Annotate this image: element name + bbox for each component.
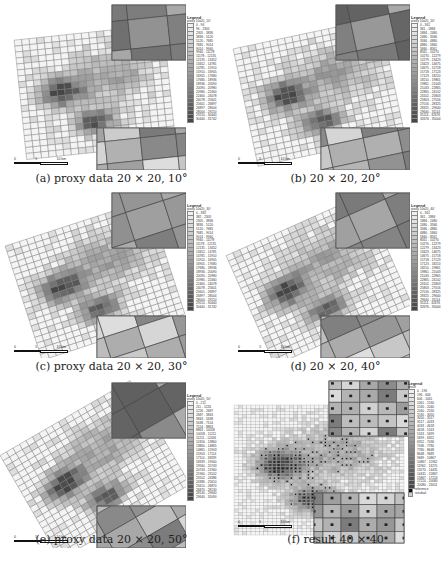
map-legend: Legendproxy 10x20_40°0 - 361361 - 188418…	[411, 204, 447, 310]
scale-bar-segment	[14, 350, 40, 352]
scale-bar-label: 0	[238, 345, 240, 349]
scale-bar: 0510 km	[238, 345, 298, 357]
scale-bar: 0510 km	[14, 157, 74, 169]
legend-swatch	[411, 306, 418, 311]
legend-entry-label: 32676 - 35004	[420, 306, 441, 310]
scale-bar-label: 0	[238, 520, 240, 524]
scale-bar-label: 10 km	[280, 157, 290, 161]
map-legend: Legendproxy 10x20_20°0 - 361361 - 188418…	[411, 16, 447, 122]
scale-bar-segment	[264, 525, 292, 528]
scale-bar-label: 0	[14, 157, 16, 161]
scale-bar-segment	[264, 350, 292, 353]
panel-caption: (a) proxy data 20 × 20, 10°	[0, 172, 223, 185]
legend-swatch	[187, 306, 194, 311]
choropleth-grid	[0, 378, 186, 548]
map-panel-b: Legendproxy 10x20_20°0 - 361361 - 188418…	[224, 0, 447, 190]
map-legend: Legendproxy 10x20_30°0 - 382382 - 230523…	[187, 204, 223, 310]
scale-bar-segment	[264, 162, 292, 165]
choropleth-grid	[224, 188, 410, 358]
choropleth-grid	[0, 188, 186, 358]
scale-bar-label: 0	[14, 345, 16, 349]
legend-swatch	[411, 118, 418, 123]
legend-marker-entry: residual	[408, 492, 444, 496]
map-panel-c: Legendproxy 10x20_30°0 - 382382 - 230523…	[0, 188, 223, 378]
scale-bar: 0510 km	[238, 157, 298, 169]
panel-caption: (f) result 40 × 40	[224, 533, 447, 546]
legend-entry: 29640 - 31090	[187, 496, 223, 500]
panel-caption: (b) 20 × 20, 20°	[224, 172, 447, 185]
scale-bar-segment	[40, 350, 68, 353]
panel-caption: (d) 20 × 20, 40°	[224, 360, 447, 373]
panel-caption: (e) proxy data 20 × 20, 50°	[0, 533, 223, 546]
legend-entry-label: 29640 - 31090	[196, 496, 217, 500]
scale-bar-label: 5	[35, 157, 37, 161]
scale-bar-segment	[14, 162, 40, 164]
outline-square-marker-icon	[408, 492, 413, 497]
choropleth-grid	[224, 0, 410, 170]
scale-bar-label: 5	[259, 157, 261, 161]
legend-swatch	[187, 118, 194, 123]
map-panel-f: Legendresult0 - 196196 - 606606 - 106110…	[224, 378, 447, 568]
legend-marker-label: residual	[415, 492, 426, 496]
scale-bar: 0510 km	[14, 345, 74, 357]
scale-bar: 0510 km	[238, 520, 298, 532]
map-panel-e: Legendproxy 10x20_50°0 - 211211 - 122612…	[0, 378, 223, 568]
legend-entry-label: 30440 - 31742	[196, 118, 217, 122]
scale-bar-label: 0	[238, 157, 240, 161]
scale-bar-label: 5	[259, 345, 261, 349]
legend-swatch	[187, 496, 194, 501]
legend-entry-label: 32676 - 35004	[420, 118, 441, 122]
legend-entry: 32676 - 35004	[411, 306, 447, 310]
legend-entry: 30440 - 31742	[187, 306, 223, 310]
scale-bar-segment	[40, 162, 68, 165]
scale-bar-label: 5	[35, 345, 37, 349]
scale-bar-label: 10 km	[280, 345, 290, 349]
map-legend: Legendresult0 - 196196 - 606606 - 106110…	[408, 382, 444, 496]
scale-bar-label: 10 km	[280, 520, 290, 524]
scale-bar-label: 10 km	[56, 345, 66, 349]
legend-entry: 32676 - 35004	[411, 118, 447, 122]
legend-entry-label: 30440 - 31742	[196, 306, 217, 310]
panel-caption: (c) proxy data 20 × 20, 30°	[0, 360, 223, 373]
scale-bar-label: 10 km	[56, 157, 66, 161]
scale-bar-label: 5	[259, 520, 261, 524]
map-panel-a: Legendproxy 10x20_10°0 - 9696 - 23052305…	[0, 0, 223, 190]
legend-entry: 30440 - 31742	[187, 118, 223, 122]
scale-bar-segment	[238, 525, 264, 527]
map-panel-d: Legendproxy 10x20_40°0 - 361361 - 188418…	[224, 188, 447, 378]
map-legend: Legendproxy 10x20_10°0 - 9696 - 23052305…	[187, 16, 223, 122]
scale-bar-segment	[238, 350, 264, 352]
map-legend: Legendproxy 10x20_50°0 - 211211 - 122612…	[187, 394, 223, 500]
choropleth-grid	[0, 0, 186, 170]
scale-bar-segment	[238, 162, 264, 164]
